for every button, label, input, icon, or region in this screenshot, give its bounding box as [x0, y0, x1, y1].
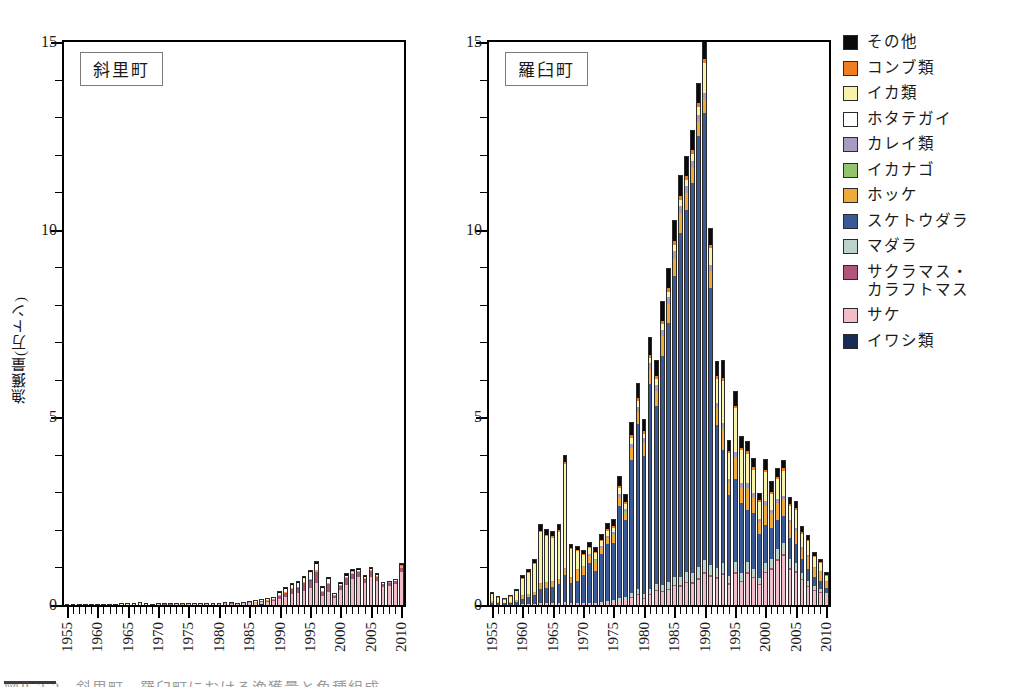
x-tick-minor	[286, 605, 287, 614]
chart-panel-shari: 斜里町 051015 19551960196519701975198019851…	[62, 40, 406, 607]
bar-segment	[629, 448, 634, 460]
bar-segment	[617, 476, 622, 486]
bar-segment	[757, 585, 762, 605]
stacked-bar	[550, 401, 555, 605]
stacked-bar	[788, 358, 793, 605]
bar-segment	[629, 460, 634, 593]
bar-segment	[775, 549, 780, 559]
bar-segment	[696, 107, 701, 115]
x-tick-minor	[346, 605, 347, 614]
x-tick-label: 1955	[484, 622, 501, 652]
legend-item: マダラ	[843, 237, 1005, 255]
bar-segment	[721, 429, 726, 450]
x-tick-major	[310, 605, 312, 618]
x-tick-label: 1985	[666, 622, 683, 652]
bar-segment	[763, 506, 768, 525]
stacked-bar	[138, 568, 143, 605]
bar-segment	[308, 581, 313, 588]
x-tick-minor	[668, 605, 669, 614]
legend-item: サクラマス・ カラフトマス	[843, 263, 1005, 299]
y-tick-minor	[480, 155, 489, 156]
x-tick-major	[492, 605, 494, 618]
y-tick-minor	[480, 305, 489, 306]
x-tick-minor	[292, 605, 293, 614]
bar-segment	[739, 573, 744, 581]
bar-segment	[702, 63, 707, 93]
legend-swatch-icon	[843, 308, 858, 323]
bar-segment	[550, 587, 555, 603]
x-tick-minor	[122, 605, 123, 614]
stacked-bar	[332, 522, 337, 605]
bar-segment	[678, 213, 683, 233]
bar-segment	[757, 502, 762, 519]
bar-segment	[745, 562, 750, 571]
stacked-bar	[617, 335, 622, 605]
bar-segment	[660, 336, 665, 355]
x-tick-minor	[528, 605, 529, 614]
bar-segment	[757, 534, 762, 578]
x-tick-label: 2000	[332, 622, 349, 652]
x-tick-minor	[334, 605, 335, 614]
stacked-bar	[235, 573, 240, 605]
bar-segment	[757, 522, 762, 534]
bar-segment	[690, 183, 695, 573]
bar-segment	[721, 381, 726, 423]
bar-segment	[769, 570, 774, 605]
x-tick-minor	[771, 605, 772, 614]
bar-segment	[727, 483, 732, 495]
legend-item: ホタテガイ	[843, 110, 1005, 128]
stacked-bar	[399, 452, 404, 605]
bar-segment	[648, 595, 653, 605]
bar-segment	[690, 573, 695, 582]
bar-segment	[654, 406, 659, 584]
stacked-bar	[648, 216, 653, 605]
y-tick-label: 10	[466, 220, 482, 238]
bar-segment	[715, 425, 720, 568]
x-tick-major	[371, 605, 373, 618]
bar-segment	[702, 113, 707, 560]
bar-segment	[684, 193, 689, 210]
stacked-bar	[296, 488, 301, 605]
x-tick-minor	[304, 605, 305, 614]
bar-segment	[715, 408, 720, 425]
x-tick-minor	[741, 605, 742, 614]
x-tick-minor	[395, 605, 396, 614]
x-tick-minor	[698, 605, 699, 614]
x-tick-label: 1975	[180, 622, 197, 652]
x-tick-minor	[759, 605, 760, 614]
stacked-bar	[95, 593, 100, 605]
bar-segment	[660, 356, 665, 585]
x-tick-label: 2010	[393, 622, 410, 652]
legend-label: サケ	[867, 306, 901, 324]
bar-segment	[745, 489, 750, 510]
legend-item: ホッケ	[843, 186, 1005, 204]
x-tick-minor	[255, 605, 256, 614]
bar-segment	[654, 591, 659, 605]
bar-segment	[788, 497, 793, 504]
stacked-bar	[611, 385, 616, 605]
legend-label: イカナゴ	[867, 161, 935, 179]
legend-swatch-icon	[843, 214, 858, 229]
bar-segment	[636, 383, 641, 398]
bar-segment	[794, 531, 799, 544]
bar-segment	[806, 541, 811, 555]
stacked-bar	[369, 458, 374, 605]
bar-segment	[636, 424, 641, 589]
y-tick-minor	[480, 492, 489, 493]
bar-segment	[648, 337, 653, 355]
bar-segment	[745, 454, 750, 483]
bar-segment	[806, 557, 811, 569]
bar-segment	[642, 419, 647, 431]
x-tick-minor	[316, 605, 317, 614]
stacked-bar	[119, 578, 124, 605]
bar-segment	[751, 513, 756, 569]
stacked-bar	[745, 301, 750, 605]
bar-segment	[575, 581, 580, 603]
stacked-bar	[581, 429, 586, 605]
bar-segment	[381, 587, 386, 605]
x-tick-minor	[814, 605, 815, 614]
bar-segment	[332, 598, 337, 605]
x-tick-minor	[79, 605, 80, 614]
stacked-bar	[775, 327, 780, 605]
x-tick-minor	[152, 605, 153, 614]
